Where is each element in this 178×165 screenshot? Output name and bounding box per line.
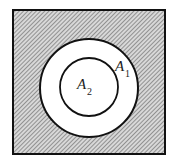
diagram: A 2 A 1	[0, 0, 178, 165]
label-a1: A	[114, 58, 125, 74]
label-a2-sub: 2	[87, 86, 92, 97]
label-a2: A	[76, 76, 87, 92]
label-a1-sub: 1	[125, 68, 130, 79]
